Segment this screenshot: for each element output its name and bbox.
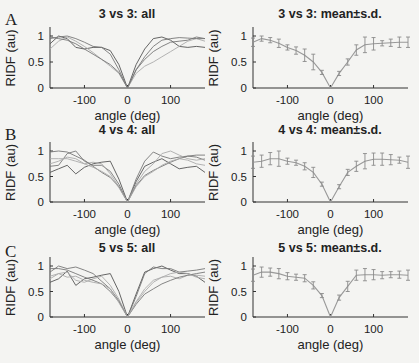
- x-tick-label: -100: [73, 94, 96, 106]
- figure: A B C 3 vs 3: all 3 vs 3: mean±s.d. 4 vs…: [0, 0, 419, 363]
- x-axis-label: angle (deg): [298, 337, 364, 352]
- y-tick-label: 1: [38, 145, 44, 157]
- title-4vs4-all: 4 vs 4: all: [99, 123, 155, 137]
- title-4vs4-mean: 4 vs 4: mean±s.d.: [278, 123, 381, 137]
- x-tick-label: -100: [73, 208, 96, 220]
- mean-line: [253, 272, 408, 317]
- panel-letter-b: B: [5, 125, 16, 144]
- x-tick-label: -100: [276, 94, 299, 106]
- trace-line: [50, 36, 205, 88]
- y-tick-label: 0.5: [28, 56, 44, 68]
- x-tick-label: 100: [161, 94, 180, 106]
- y-tick-label: 0.5: [28, 171, 44, 183]
- y-tick-label: 0.5: [28, 286, 44, 298]
- trace-line: [50, 272, 205, 317]
- y-tick-label: 0: [38, 196, 44, 208]
- y-axis-label: RIDF (au): [3, 259, 18, 316]
- y-axis-label: RIDF (au): [206, 144, 221, 201]
- x-tick-label: 100: [161, 208, 180, 220]
- y-tick-label: 1: [241, 30, 247, 42]
- trace-line: [50, 266, 205, 317]
- y-axis-label: RIDF (au): [3, 144, 18, 201]
- x-tick-label: 100: [364, 94, 383, 106]
- y-tick-label: 1: [38, 30, 44, 42]
- y-tick-label: 0: [38, 82, 44, 94]
- trace-line: [50, 269, 205, 317]
- x-axis-label: angle (deg): [95, 337, 161, 352]
- y-tick-label: 0.5: [231, 171, 247, 183]
- x-tick-label: 0: [327, 94, 333, 106]
- x-axis-label: angle (deg): [95, 222, 161, 237]
- title-3vs3-all: 3 vs 3: all: [99, 7, 155, 21]
- y-tick-label: 0: [38, 311, 44, 323]
- y-tick-label: 0: [241, 196, 247, 208]
- x-tick-label: -100: [276, 323, 299, 335]
- x-axis-label: angle (deg): [95, 108, 161, 123]
- x-tick-label: 100: [161, 323, 180, 335]
- x-tick-label: 100: [364, 323, 383, 335]
- y-tick-label: 1: [241, 145, 247, 157]
- y-axis-label: RIDF (au): [206, 259, 221, 316]
- x-tick-label: -100: [276, 208, 299, 220]
- x-axis-label: angle (deg): [298, 108, 364, 123]
- y-axis-label: RIDF (au): [206, 29, 221, 86]
- x-tick-label: 0: [124, 323, 130, 335]
- y-tick-label: 0.5: [231, 56, 247, 68]
- title-3vs3-mean: 3 vs 3: mean±s.d.: [278, 7, 381, 21]
- x-axis-label: angle (deg): [298, 222, 364, 237]
- y-tick-label: 1: [241, 260, 247, 272]
- trace-line: [50, 272, 205, 317]
- y-tick-label: 0.5: [231, 286, 247, 298]
- y-tick-label: 0: [241, 82, 247, 94]
- y-tick-label: 1: [38, 260, 44, 272]
- panel-letter-a: A: [5, 10, 18, 29]
- title-5vs5-all: 5 vs 5: all: [99, 241, 155, 255]
- x-tick-label: 0: [327, 208, 333, 220]
- y-tick-label: 0: [241, 311, 247, 323]
- panel-letter-c: C: [5, 242, 16, 261]
- mean-line: [253, 159, 408, 202]
- trace-line: [50, 36, 205, 88]
- x-tick-label: 0: [124, 208, 130, 220]
- mean-line: [253, 39, 408, 88]
- trace-line: [50, 159, 205, 202]
- x-tick-label: 100: [364, 208, 383, 220]
- trace-line: [50, 157, 205, 202]
- x-tick-label: -100: [73, 323, 96, 335]
- y-axis-label: RIDF (au): [3, 29, 18, 86]
- title-5vs5-mean: 5 vs 5: mean±s.d.: [278, 241, 381, 255]
- x-tick-label: 0: [124, 94, 130, 106]
- x-tick-label: 0: [327, 323, 333, 335]
